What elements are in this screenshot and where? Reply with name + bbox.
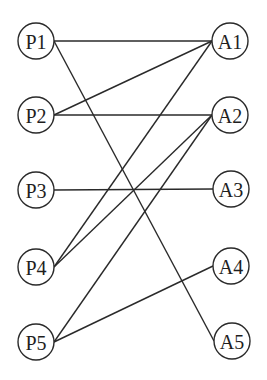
node-a3: A3	[213, 171, 249, 207]
edge-p4-a2	[54, 115, 212, 267]
node-p1: P1	[18, 23, 54, 59]
node-label: P1	[25, 31, 46, 53]
node-label: A3	[219, 179, 243, 201]
node-p3: P3	[18, 172, 54, 208]
node-label: P2	[25, 105, 46, 127]
node-a4: A4	[213, 248, 249, 284]
node-label: P3	[25, 180, 46, 202]
node-label: A1	[218, 31, 242, 53]
node-p4: P4	[18, 249, 54, 285]
node-label: P5	[25, 332, 46, 354]
edge-p2-a1	[54, 41, 212, 115]
node-label: P4	[25, 257, 46, 279]
node-label: A2	[218, 105, 242, 127]
node-p5: P5	[18, 324, 54, 360]
edge-p4-a1	[54, 41, 212, 267]
node-a5: A5	[214, 323, 250, 359]
node-label: A4	[219, 256, 243, 278]
edges-layer	[54, 41, 214, 342]
node-a2: A2	[212, 97, 248, 133]
bipartite-graph: P1P2P3P4P5A1A2A3A4A5	[0, 0, 267, 380]
node-a1: A1	[212, 23, 248, 59]
edge-p5-a2	[54, 115, 212, 342]
node-label: A5	[220, 331, 244, 353]
node-p2: P2	[18, 97, 54, 133]
edge-p5-a4	[54, 266, 213, 342]
